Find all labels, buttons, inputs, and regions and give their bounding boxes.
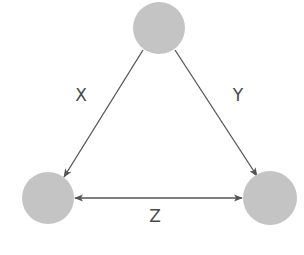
- edge-x-arrow: [64, 50, 143, 177]
- edge-z-label: Z: [149, 206, 161, 226]
- node-bottom-right: [243, 171, 297, 225]
- node-bottom-left: [22, 172, 74, 224]
- edge-x-label: X: [75, 85, 87, 105]
- node-top: [133, 2, 185, 54]
- edge-y-arrow: [175, 50, 257, 176]
- relationship-diagram: X Y Z: [0, 0, 304, 255]
- edge-y-label: Y: [232, 85, 244, 105]
